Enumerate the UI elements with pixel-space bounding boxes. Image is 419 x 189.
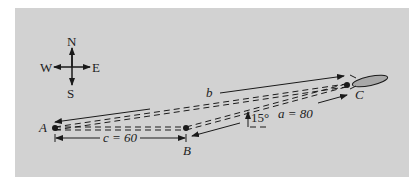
point-a-label: A <box>38 120 47 135</box>
compass-north-label: N <box>67 34 77 49</box>
compass-west-label: W <box>40 60 53 75</box>
side-b-label: b <box>206 85 213 100</box>
point-c-dot <box>344 82 350 88</box>
side-a-line-left <box>192 123 240 136</box>
compass-east-label: E <box>92 60 100 75</box>
point-b-label: B <box>183 143 191 158</box>
navigation-diagram: N S W E b c = 60 a = 80 15° A B C <box>0 0 419 189</box>
point-b-dot <box>183 125 189 131</box>
side-a-line-right <box>318 95 347 103</box>
side-a-label: a = 80 <box>278 106 313 121</box>
side-c-label: c = 60 <box>103 130 138 145</box>
point-c-label: C <box>355 87 364 102</box>
compass-rose-icon <box>54 48 90 85</box>
point-a-dot <box>52 125 58 131</box>
compass-south-label: S <box>67 86 74 101</box>
angle-label: 15° <box>251 110 269 125</box>
